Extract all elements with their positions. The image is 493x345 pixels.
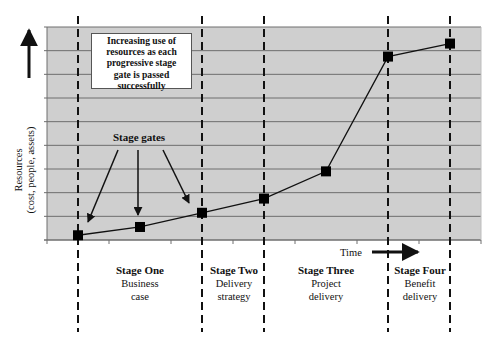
callout-line: gate is passed: [92, 69, 191, 80]
data-point-marker: [445, 39, 455, 49]
data-point-marker: [383, 52, 393, 62]
stage-desc: Benefit: [388, 277, 452, 290]
stage-three: Stage Three Project delivery: [286, 264, 366, 303]
stage-title: Stage One: [100, 264, 180, 277]
callout-line: progressive stage: [92, 57, 191, 68]
stage-desc: delivery: [388, 290, 452, 303]
y-axis-label-main: Resources: [13, 127, 25, 214]
callout-line: resources as each: [92, 46, 191, 57]
data-point-marker: [259, 194, 269, 204]
stage-desc: Business: [100, 277, 180, 290]
stage-desc: Delivery: [203, 277, 265, 290]
stage-desc: Project: [286, 277, 366, 290]
callout-line: Increasing use of: [92, 35, 191, 46]
stage-title: Stage Four: [388, 264, 452, 277]
data-point-marker: [135, 222, 145, 232]
data-point-marker: [197, 208, 207, 218]
stage-two: Stage Two Delivery strategy: [203, 264, 265, 303]
stage-desc: case: [100, 290, 180, 303]
stage-one: Stage One Business case: [100, 264, 180, 303]
stage-desc: delivery: [286, 290, 366, 303]
stage-title: Stage Two: [203, 264, 265, 277]
stage-four: Stage Four Benefit delivery: [388, 264, 452, 303]
y-axis-label: Resources (cost, people, assets): [7, 125, 43, 215]
callout-line: successfully: [92, 80, 191, 91]
stage-title: Stage Three: [286, 264, 366, 277]
y-axis-label-sub: (cost, people, assets): [25, 127, 37, 214]
x-axis-label: Time: [340, 247, 362, 258]
data-point-marker: [73, 230, 83, 240]
stage-gates-label: Stage gates: [100, 131, 178, 143]
stage-desc: strategy: [203, 290, 265, 303]
data-point-marker: [321, 166, 331, 176]
callout-box: Increasing use of resources as each prog…: [91, 33, 192, 89]
